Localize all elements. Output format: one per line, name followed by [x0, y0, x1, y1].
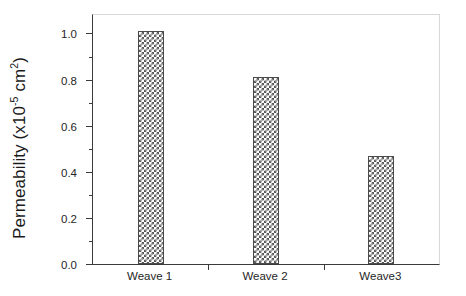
x-axis-tick	[208, 264, 209, 270]
y-axis-title-suffix: )	[10, 57, 29, 63]
y-axis-title-exponent-2: 2	[8, 63, 20, 69]
x-axis-category-label: Weave 1	[127, 270, 172, 282]
y-axis-tick-major: 0.8	[86, 80, 93, 81]
y-axis-tick-label: 0.8	[61, 75, 77, 87]
y-axis-tick-label: 1.0	[61, 28, 77, 40]
bar	[138, 31, 164, 264]
y-axis-tick-major: 0.4	[86, 172, 93, 173]
y-axis-tick-minor	[89, 195, 93, 196]
y-axis-title: Permeability (x10-5 cm2)	[10, 57, 30, 239]
plot-area: 0.00.20.40.60.81.0	[92, 14, 440, 265]
y-axis-tick-label: 0.0	[61, 259, 77, 271]
x-axis-category-label: Weave3	[359, 270, 401, 282]
bar	[253, 77, 279, 264]
bar	[368, 156, 394, 264]
y-axis-tick-major: 1.0	[86, 33, 93, 34]
y-axis-tick-major: 0.6	[86, 126, 93, 127]
y-axis-title-exponent-1: -5	[8, 96, 20, 106]
y-axis-tick-minor	[89, 103, 93, 104]
y-axis-tick-major: 0.2	[86, 218, 93, 219]
y-axis-tick-major: 0.0	[86, 264, 93, 265]
x-axis-tick	[324, 264, 325, 270]
bar-chart-figure: Permeability (x10-5 cm2) 0.00.20.40.60.8…	[0, 0, 466, 296]
y-axis-tick-label: 0.2	[61, 213, 77, 225]
y-axis-tick-minor	[89, 241, 93, 242]
y-axis-tick-label: 0.4	[61, 167, 77, 179]
y-axis-title-mid: cm	[10, 69, 29, 97]
y-axis-tick-label: 0.6	[61, 121, 77, 133]
y-axis-title-wrapper: Permeability (x10-5 cm2)	[0, 0, 40, 296]
x-axis-category-label: Weave 2	[242, 270, 287, 282]
y-axis-title-prefix: Permeability (x10	[10, 106, 29, 239]
y-axis-tick-minor	[89, 57, 93, 58]
y-axis-tick-minor	[89, 149, 93, 150]
